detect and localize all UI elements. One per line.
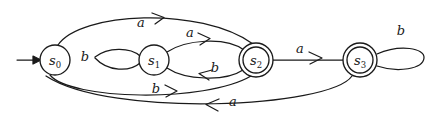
edge-s0-to-s1-lens-label: b — [81, 49, 89, 64]
edge-s3-to-s0-bottom-path — [46, 76, 352, 104]
edge-s3-to-s0-bottom: a — [46, 76, 352, 111]
state-node-s0[interactable]: s0 — [40, 45, 70, 75]
state-node-s2[interactable]: s2 — [239, 43, 273, 77]
state-node-s3[interactable]: s3 — [343, 43, 377, 77]
automaton-canvas: a b a b a b — [0, 0, 438, 128]
edge-s3-to-s0-bottom-label: a — [229, 94, 237, 109]
edge-s0-to-s1-lens-lower-path — [95, 58, 140, 69]
edge-s3-self-loop-label: b — [397, 23, 405, 38]
edge-s1-to-s2: a — [167, 25, 244, 53]
edge-s0-to-s2-bottom: b — [50, 75, 251, 97]
edge-s0-to-s1-lens-upper-path — [95, 49, 140, 57]
edge-s2-to-s3: a — [273, 41, 343, 65]
edge-s2-to-s1: b — [167, 60, 243, 81]
edge-s2-to-s3-label: a — [296, 41, 304, 56]
edge-s1-to-s2-arrowhead — [198, 33, 210, 45]
edge-s2-to-s1-path — [167, 68, 243, 78]
edge-s3-to-s0-bottom-arrowhead — [206, 99, 219, 111]
edge-s0-to-s2-bottom-arrowhead — [165, 85, 177, 97]
edge-s0-to-s2-top-label: a — [137, 15, 145, 30]
automaton-diagram: a b a b a b — [0, 0, 438, 128]
edge-s2-to-s3-arrowhead — [309, 52, 322, 64]
edge-s3-self-loop: b — [377, 23, 424, 70]
edge-s0-to-s2-top: a — [58, 13, 253, 45]
edge-s1-to-s2-label: a — [186, 25, 194, 40]
start-arrow — [17, 56, 41, 64]
edge-s3-self-loop-path — [377, 48, 424, 69]
edge-s0-to-s1-lens: b — [81, 49, 140, 70]
edge-s0-to-s2-bottom-label: b — [152, 81, 160, 96]
edge-s2-to-s1-label: b — [211, 60, 219, 75]
edge-s1-to-s2-path — [167, 41, 244, 52]
edge-s0-to-s2-top-path — [58, 18, 253, 45]
state-node-s1[interactable]: s1 — [139, 45, 169, 75]
